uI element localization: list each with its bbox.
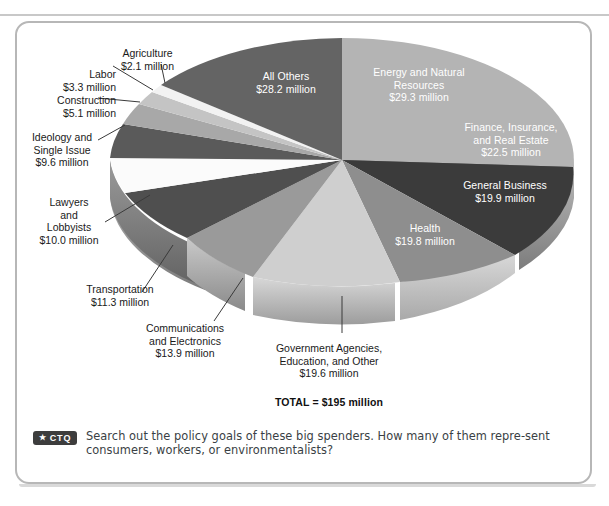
ctq-badge-label: CTQ (50, 433, 71, 443)
slice-label-finance-insurance-real-estate: Finance, Insurance, and Real Estate $22.… (437, 121, 585, 159)
ctq-badge[interactable]: ★ CTQ (33, 431, 77, 445)
callout-label-labor: Labor $3.3 million (20, 68, 116, 93)
callout-label-communications-and-electronics: Communications and Electronics $13.9 mil… (130, 322, 240, 360)
slice-label-general-business: General Business $19.9 million (433, 179, 577, 204)
frame-shadow (19, 484, 596, 487)
star-icon: ★ (39, 434, 47, 442)
page-top-rule (0, 14, 609, 16)
callout-label-government-agencies: Government Agencies, Education, and Othe… (247, 342, 411, 380)
slice-label-all-others: All Others $28.2 million (219, 70, 353, 95)
chart-total-label: TOTAL = $195 million (249, 396, 409, 408)
callout-label-transportation: Transportation $11.3 million (68, 283, 172, 308)
callout-label-ideology-and-single-issue: Ideology and Single Issue $9.6 million (16, 131, 108, 169)
callout-label-lawyers-and-lobbyists: Lawyers and Lobbyists $10.0 million (23, 196, 115, 246)
slice-label-health: Health $19.8 million (370, 222, 480, 247)
slice-label-energy-and-natural-resources: Energy and Natural Resources $29.3 milli… (356, 66, 482, 104)
callout-label-construction: Construction $5.1 million (12, 94, 116, 119)
ctq-question-text: Search out the policy goals of these big… (86, 429, 556, 458)
figure-page: Energy and Natural Resources $29.3 milli… (0, 0, 609, 506)
